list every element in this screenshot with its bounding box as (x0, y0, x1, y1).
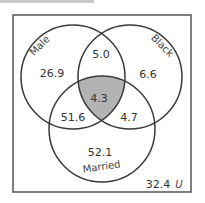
married-label: Married (82, 158, 121, 174)
venn-diagram: Male Black Married 26.9 5.0 6.6 4.3 51.6… (0, 0, 205, 203)
triple-value: 4.3 (90, 92, 108, 105)
universe-label: U (175, 179, 183, 190)
black-only-value: 6.6 (139, 68, 157, 81)
male-only-value: 26.9 (40, 67, 65, 80)
male-label: Male (27, 33, 52, 58)
outside-value: 32.4 (146, 178, 171, 191)
black-married-value: 4.7 (120, 111, 138, 124)
married-only-value: 52.1 (88, 146, 113, 159)
male-black-value: 5.0 (92, 48, 110, 61)
male-married-value: 51.6 (61, 111, 86, 124)
